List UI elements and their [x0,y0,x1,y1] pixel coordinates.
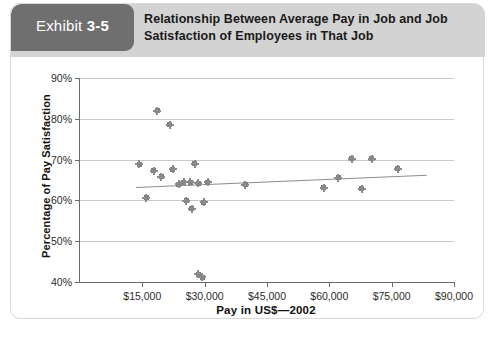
x-axis-tick [205,282,206,287]
x-axis-label: $30,000 [186,290,224,302]
y-gridline [80,78,454,79]
data-point [359,186,364,191]
data-point [369,156,374,161]
data-point [201,200,206,205]
data-point [395,166,400,171]
exhibit-header-band: Exhibit 3-5 Relationship Between Average… [11,4,485,57]
y-axis-label: 70% [51,154,72,166]
data-point [167,122,172,127]
data-point [321,185,326,190]
y-axis-tick [75,119,80,120]
x-axis-tick [454,282,455,287]
data-point [192,161,197,166]
y-axis-label: 90% [51,72,72,84]
data-point [159,174,164,179]
y-axis-tick [75,78,80,79]
exhibit-title: Relationship Between Average Pay in Job … [144,11,474,45]
x-axis-tick [267,282,268,287]
exhibit-tab-text: Exhibit 3-5 [11,17,134,34]
x-axis-label: $15,000 [123,290,161,302]
x-axis-tick [142,282,143,287]
y-gridline [80,241,454,242]
x-axis-label: $75,000 [373,290,411,302]
data-point [205,180,210,185]
y-axis-tick [75,200,80,201]
data-point [170,167,175,172]
data-point [189,206,194,211]
y-axis-tick [75,241,80,242]
data-point [184,198,189,203]
x-axis-tick [329,282,330,287]
y-axis-tick [75,282,80,283]
x-axis-label: $60,000 [310,290,348,302]
data-point [196,181,201,186]
y-axis-label: 60% [51,194,72,206]
data-point [155,108,160,113]
x-axis-title: Pay in US$—2002 [79,304,453,316]
exhibit-label: Exhibit [36,17,82,34]
data-point [243,182,248,187]
exhibit-number: 3-5 [87,17,109,34]
scatter-chart: Percentage of Pay Satisfaction 40%50%60%… [11,57,485,319]
data-point [137,162,142,167]
y-axis-label: 40% [51,276,72,288]
y-axis-label: 50% [51,235,72,247]
data-point [200,275,205,280]
data-point [188,180,193,185]
exhibit-figure: Exhibit 3-5 Relationship Between Average… [10,3,484,319]
y-gridline [80,119,454,120]
y-axis-tick [75,160,80,161]
y-gridline [80,160,454,161]
data-point [349,156,354,161]
y-gridline [80,200,454,201]
y-axis-label: 80% [51,113,72,125]
x-axis-label: $90,000 [435,290,473,302]
exhibit-number-tab: Exhibit 3-5 [11,4,134,51]
data-point [144,195,149,200]
x-axis-label: $45,000 [248,290,286,302]
data-point [336,175,341,180]
x-axis-tick [392,282,393,287]
plot-area: 40%50%60%70%80%90%$15,000$30,000$45,000$… [79,78,454,283]
data-point [151,168,156,173]
